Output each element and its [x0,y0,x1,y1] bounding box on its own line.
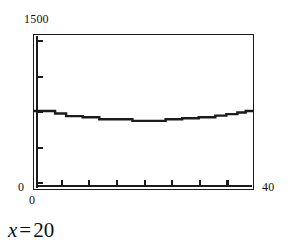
caption-variable: x [8,218,17,242]
caption-equals: = [17,218,33,242]
x-axis-min-label: 0 [29,194,35,207]
caption: x=20 [8,218,54,242]
figure-container: 1500 0 0 40 x=20 [0,0,289,252]
y-axis-min-label: 0 [18,181,24,194]
data-series-curve [33,34,254,190]
y-axis-max-label: 1500 [24,13,49,26]
caption-value: 20 [33,218,54,242]
x-axis-max-label: 40 [262,181,274,194]
curve-polyline [33,110,254,121]
